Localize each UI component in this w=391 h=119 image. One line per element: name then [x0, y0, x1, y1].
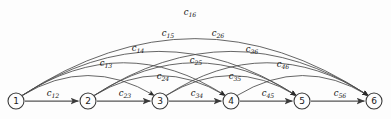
edge-label-c23: c23 — [119, 88, 132, 99]
edge-label-c25: c25 — [190, 55, 203, 66]
node-2[interactable]: 2 — [80, 93, 96, 109]
edge-label-c13: c13 — [100, 58, 113, 69]
edge-label-c34: c34 — [191, 88, 204, 99]
node-3[interactable]: 3 — [152, 93, 168, 109]
edge-label-c45: c45 — [262, 88, 275, 99]
node-label-2: 2 — [85, 96, 91, 106]
diagram-canvas: 123456 c12c23c34c45c56c13c24c35c46c14c25… — [0, 0, 391, 119]
edge-label-c46: c46 — [277, 59, 290, 70]
edge-label-c12: c12 — [47, 88, 60, 99]
node-label-1: 1 — [13, 96, 19, 106]
edge-label-c24: c24 — [157, 71, 170, 82]
node-label-4: 4 — [228, 96, 234, 106]
edge-label-c56: c56 — [334, 88, 347, 99]
node-label-6: 6 — [371, 96, 377, 106]
edge-label-c15: c15 — [162, 28, 175, 39]
node-6[interactable]: 6 — [366, 93, 382, 109]
edge-label-c26: c26 — [212, 28, 225, 39]
network-graph: 123456 c12c23c34c45c56c13c24c35c46c14c25… — [0, 0, 391, 119]
edge-label-c35: c35 — [229, 71, 242, 82]
node-1[interactable]: 1 — [8, 93, 24, 109]
node-label-5: 5 — [299, 96, 305, 106]
node-5[interactable]: 5 — [294, 93, 310, 109]
edge-label-group: c12c23c34c45c56c13c24c35c46c14c25c36c15c… — [47, 7, 347, 99]
node-label-3: 3 — [157, 96, 163, 106]
edge-label-c16: c16 — [184, 7, 197, 18]
node-4[interactable]: 4 — [223, 93, 239, 109]
